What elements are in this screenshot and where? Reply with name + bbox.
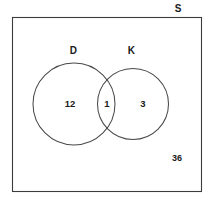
region-count-outside: 36 xyxy=(172,154,182,163)
venn-diagram: S D K 12 1 3 36 xyxy=(0,0,214,205)
set-label-k: K xyxy=(128,46,135,56)
region-count-k-only: 3 xyxy=(140,99,145,109)
region-count-intersection: 1 xyxy=(104,99,109,109)
region-count-d-only: 12 xyxy=(65,99,76,109)
set-label-d: D xyxy=(70,46,77,56)
universal-set-label: S xyxy=(175,4,182,14)
